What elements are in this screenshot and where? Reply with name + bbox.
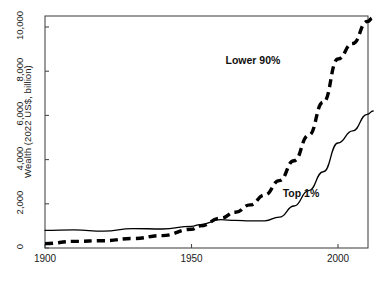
series-label-lower-90: Lower 90%: [226, 54, 281, 66]
y-tick-label: 10,000: [14, 3, 25, 49]
y-tick-label: 6,000: [14, 91, 25, 137]
y-tick-label: 8,000: [14, 47, 25, 93]
plot-frame: [45, 16, 368, 248]
x-tick-label: 1900: [15, 253, 75, 264]
y-tick-label: 2,000: [14, 179, 25, 225]
series-label-top-1: Top 1%: [283, 187, 320, 199]
x-tick-label: 1950: [162, 253, 222, 264]
series-line-top-1: [45, 111, 373, 231]
series-line-lower-90: [45, 18, 373, 244]
x-tick-label: 2000: [308, 253, 368, 264]
plot-area: [0, 0, 379, 282]
y-tick-label: 4,000: [14, 135, 25, 181]
wealth-line-chart: Wealth (2022 US$, billion) 02,0004,0006,…: [0, 0, 379, 282]
